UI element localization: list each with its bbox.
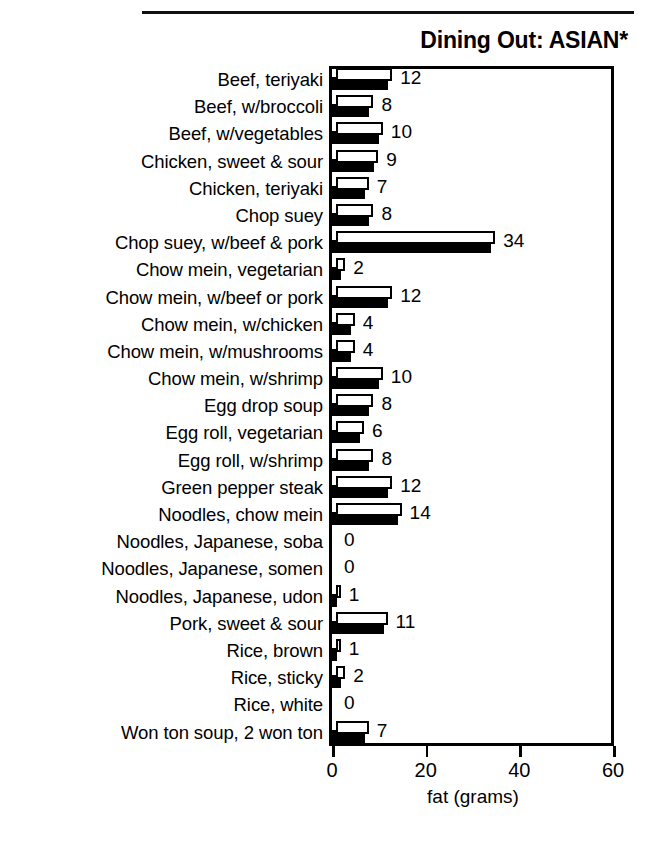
category-label: Green pepper steak [161, 475, 323, 500]
bar-value-label: 10 [391, 120, 412, 144]
bar-value-label: 34 [503, 229, 524, 253]
bar-front [336, 503, 402, 516]
bar-row: Rice, sticky2 [0, 664, 662, 691]
category-label: Chow mein, w/beef or pork [105, 285, 323, 310]
bar-front [336, 122, 383, 135]
x-axis-tick-label: 20 [415, 758, 437, 782]
bar-value-label: 8 [381, 202, 392, 226]
bar-front [336, 95, 373, 108]
bar-front [336, 340, 355, 353]
bar-row: Chicken, teriyaki7 [0, 175, 662, 202]
bar-group [332, 367, 385, 392]
bar-value-label: 1 [349, 583, 360, 607]
x-axis-title: fat (grams) [329, 785, 617, 809]
bar-front [336, 177, 369, 190]
bar-row: Chow mein, w/mushrooms4 [0, 338, 662, 365]
bar-group [332, 721, 371, 746]
bar-value-label: 7 [377, 175, 388, 199]
header-divider-rule [142, 11, 634, 14]
bar-row: Beef, w/vegetables10 [0, 120, 662, 147]
bar-group [332, 612, 390, 637]
bar-front [336, 476, 392, 489]
bar-value-label: 9 [386, 148, 397, 172]
bar-value-label: 12 [400, 474, 421, 498]
bar-front [336, 204, 373, 217]
bar-row: Won ton soup, 2 won ton7 [0, 719, 662, 746]
bar-value-label: 0 [344, 528, 355, 552]
bar-value-label: 0 [344, 691, 355, 715]
category-label: Chow mein, vegetarian [136, 257, 323, 282]
bar-group [332, 68, 394, 93]
category-label: Chicken, sweet & sour [141, 149, 323, 174]
bar-group [332, 286, 394, 311]
bar-group [332, 313, 357, 338]
category-label: Rice, sticky [231, 665, 323, 690]
category-label: Rice, white [234, 692, 323, 717]
category-label: Beef, w/broccoli [194, 94, 323, 119]
category-label: Pork, sweet & sour [170, 611, 323, 636]
bar-front [336, 286, 392, 299]
bar-value-label: 2 [353, 256, 364, 280]
bar-value-label: 11 [396, 610, 416, 634]
bar-value-label: 0 [344, 555, 355, 579]
x-axis-tick [426, 746, 429, 757]
bar-front [336, 585, 341, 598]
bar-group [332, 666, 347, 691]
bar-row: Egg roll, vegetarian6 [0, 419, 662, 446]
bar-row: Beef, w/broccoli8 [0, 93, 662, 120]
bar-front [336, 313, 355, 326]
bar-value-label: 8 [381, 392, 392, 416]
category-label: Egg roll, vegetarian [166, 420, 323, 445]
bar-row: Noodles, Japanese, soba0 [0, 528, 662, 555]
bar-front [336, 150, 378, 163]
bar-group [332, 585, 343, 610]
chart-title: Dining Out: ASIAN* [0, 27, 628, 54]
bar-row: Chop suey, w/beef & pork34 [0, 229, 662, 256]
bar-value-label: 12 [400, 284, 421, 308]
bar-group [332, 95, 375, 120]
bar-front [336, 612, 388, 625]
bar-row: Noodles, chow mein14 [0, 501, 662, 528]
bar-value-label: 8 [381, 93, 392, 117]
bar-row: Chicken, sweet & sour9 [0, 148, 662, 175]
bar-row: Chow mein, w/beef or pork12 [0, 284, 662, 311]
bar-group [332, 150, 380, 175]
category-label: Noodles, Japanese, soba [117, 529, 324, 554]
bar-group [332, 231, 497, 256]
chart-page: Dining Out: ASIAN* Beef, teriyaki12Beef,… [0, 0, 662, 847]
x-axis-tick [332, 746, 335, 757]
bar-value-label: 1 [349, 637, 360, 661]
bar-row: Pork, sweet & sour11 [0, 610, 662, 637]
bar-value-label: 8 [381, 447, 392, 471]
bar-row: Noodles, Japanese, somen0 [0, 555, 662, 582]
category-label: Noodles, Japanese, udon [115, 584, 323, 609]
bar-group [332, 204, 375, 229]
category-label: Egg drop soup [204, 393, 323, 418]
bar-row: Chop suey8 [0, 202, 662, 229]
bar-group [332, 258, 347, 283]
bar-front [336, 367, 383, 380]
bar-front [336, 68, 392, 81]
category-label: Chow mein, w/shrimp [148, 366, 323, 391]
x-axis-tick [613, 746, 616, 757]
bar-value-label: 14 [410, 501, 431, 525]
x-axis-tick-label: 0 [326, 758, 337, 782]
category-label: Rice, brown [226, 638, 323, 663]
category-label: Egg roll, w/shrimp [178, 448, 323, 473]
category-label: Chop suey, w/beef & pork [115, 230, 323, 255]
bar-group [332, 503, 404, 528]
bar-front [336, 639, 341, 652]
category-label: Chop suey [235, 203, 323, 228]
bar-group [332, 476, 394, 501]
bar-row: Beef, teriyaki12 [0, 66, 662, 93]
bar-value-label: 2 [353, 664, 364, 688]
bar-row: Chow mein, vegetarian2 [0, 256, 662, 283]
bar-rows-container: Beef, teriyaki12Beef, w/broccoli8Beef, w… [0, 66, 662, 746]
bar-row: Egg drop soup8 [0, 392, 662, 419]
bar-group [332, 394, 375, 419]
bar-row: Chow mein, w/shrimp10 [0, 365, 662, 392]
x-axis-tick [519, 746, 522, 757]
bar-group [332, 639, 343, 664]
bar-front [336, 258, 345, 271]
bar-row: Rice, brown1 [0, 637, 662, 664]
